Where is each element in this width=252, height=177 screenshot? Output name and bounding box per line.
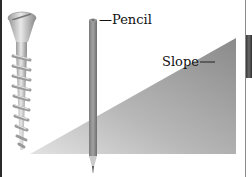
right-border-line (245, 0, 246, 177)
screw-icon (8, 12, 36, 150)
diagram-canvas: —Pencil Slope (0, 0, 252, 177)
slope-triangle (30, 38, 236, 154)
adjacent-figure-edge (246, 35, 252, 78)
slope-label: Slope (162, 55, 199, 68)
pencil-icon (89, 18, 97, 173)
pencil-label: —Pencil (99, 13, 152, 26)
